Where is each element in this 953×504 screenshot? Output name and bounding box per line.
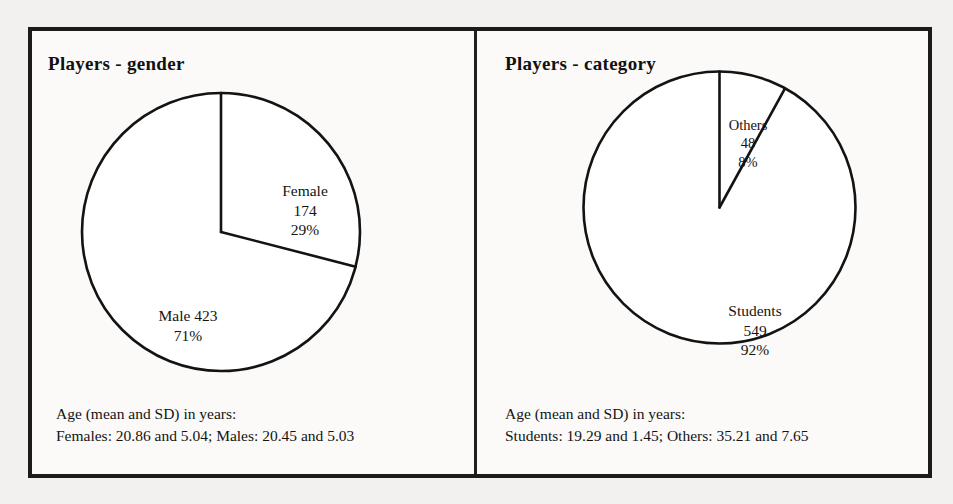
caption-category: Age (mean and SD) in years: Students: 19…	[505, 403, 809, 446]
panel-players-gender: Players - gender Female 174 29% Male 423…	[32, 31, 474, 474]
pie-label-male: Male 423 71%	[128, 306, 248, 345]
pie-label-students: Students 549 92%	[695, 301, 815, 360]
figure-frame: Players - gender Female 174 29% Male 423…	[28, 27, 932, 478]
pie-label-female: Female 174 29%	[250, 181, 360, 240]
panel-title-gender: Players - gender	[48, 53, 185, 75]
caption-gender: Age (mean and SD) in years: Females: 20.…	[56, 403, 354, 446]
panel-players-category: Players - category Others 48 8% Students…	[477, 31, 928, 474]
pie-label-others: Others 48 8%	[709, 116, 787, 171]
